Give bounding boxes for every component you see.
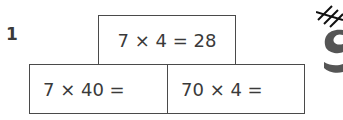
bottom-right-equation: 70 × 4 = xyxy=(181,79,263,100)
pyramid-bottom-right-box[interactable]: 70 × 4 = xyxy=(167,64,305,114)
bottom-left-equation: 7 × 40 = xyxy=(43,79,125,100)
hash-doodle-icon xyxy=(316,2,343,82)
question-number: 1 xyxy=(6,24,18,44)
pyramid-bottom-left-box[interactable]: 7 × 40 = xyxy=(29,64,168,114)
top-equation: 7 × 4 = 28 xyxy=(118,30,217,51)
pyramid-top-box: 7 × 4 = 28 xyxy=(98,15,236,65)
